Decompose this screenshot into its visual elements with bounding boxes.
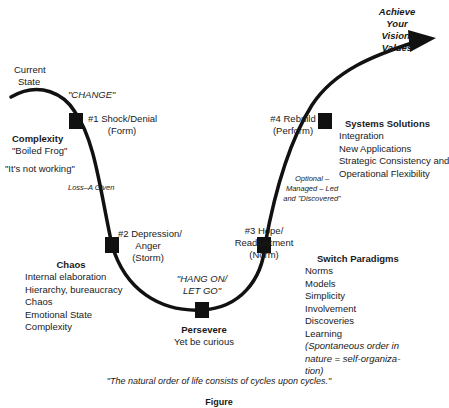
stage-1-marker (69, 113, 83, 129)
stage-4-marker (318, 113, 332, 129)
complexity-block: Complexity "Boiled Frog" (12, 133, 62, 157)
stage-1-label: #1 Shock/Denial(Form) (88, 113, 156, 137)
current-state-label: CurrentState (14, 64, 46, 88)
stage-2-label: #2 Depression/Anger(Storm) (118, 228, 178, 264)
change-label: "CHANGE" (68, 89, 115, 101)
optional-label: Optional –Managed – Ledand "Discovered" (279, 174, 345, 204)
persevere-block: Persevere Yet be curious (172, 324, 236, 348)
figure-label: Figure (0, 396, 438, 408)
chaos-list: Internal elaborationHierarchy, bureaucra… (25, 271, 123, 334)
switch-paradigms-block: Switch Paradigms NormsModelsSimplicityIn… (305, 253, 400, 378)
persevere-marker (195, 302, 209, 318)
goal-label: AchieveYourVision,Values (372, 6, 422, 54)
caption: "The natural order of life consists of c… (0, 375, 438, 387)
stage-4-label: #4 Rebuild(Perform) (266, 113, 320, 137)
systems-solutions-block: Systems Solutions IntegrationNew Applica… (339, 118, 449, 180)
chaos-title: Chaos (26, 259, 116, 271)
loss-given-label: Loss–A Given (68, 183, 114, 193)
hang-on-label: "HANG ON/LET GO" (172, 273, 232, 297)
stage-3-label: #3 Hope/Readjustment(Norm) (230, 225, 298, 261)
not-working-quote: "It's not working" (5, 163, 75, 175)
stage-2-marker (105, 237, 119, 253)
